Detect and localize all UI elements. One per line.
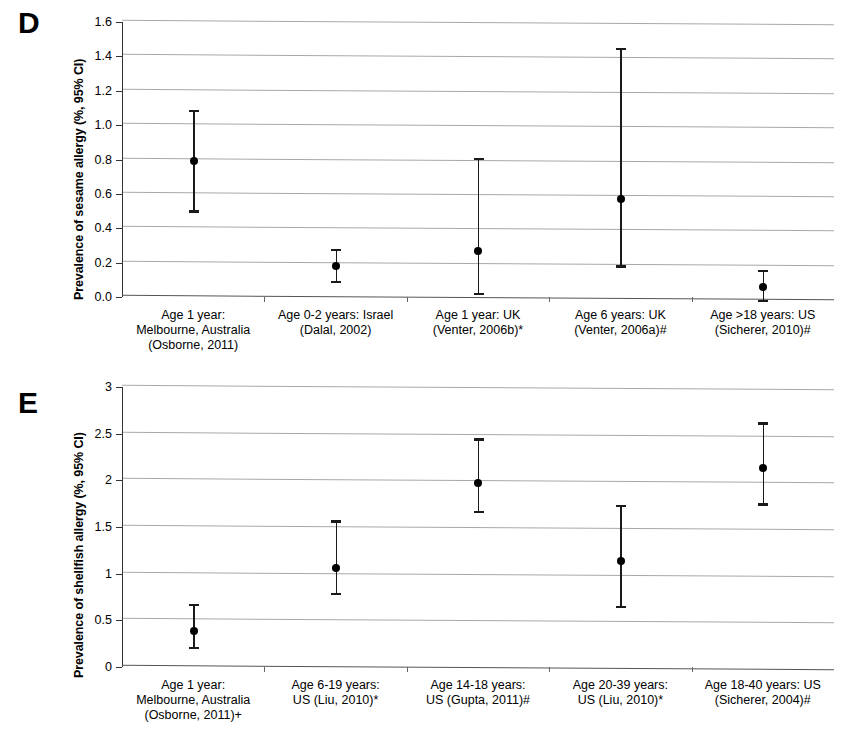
- error-bar: [620, 48, 621, 268]
- y-tick-label: 0.8: [60, 153, 112, 167]
- x-category-label: Age 1 year: Melbourne, Australia (Osborn…: [110, 678, 276, 723]
- error-bar-whisker-line: [336, 520, 337, 595]
- data-point-marker: [190, 627, 198, 635]
- x-tick-mark: [407, 297, 408, 302]
- y-tick-label: 2: [60, 473, 112, 487]
- x-tick-mark: [692, 297, 693, 302]
- y-tick-label: 1.2: [60, 84, 112, 98]
- data-point-marker: [759, 283, 767, 291]
- y-tick-label: 0.0: [60, 290, 112, 304]
- y-tick-label: 2.5: [60, 427, 112, 441]
- panel-e-plot-area: [122, 387, 834, 667]
- y-tick-label: 1.4: [60, 49, 112, 63]
- data-point-marker: [190, 157, 198, 165]
- y-tick-label: 0.5: [60, 613, 112, 627]
- error-bar-upper-cap: [331, 520, 341, 522]
- data-point-marker: [474, 247, 482, 255]
- data-point-marker: [332, 564, 340, 572]
- data-point-marker: [617, 195, 625, 203]
- error-bar-upper-cap: [758, 422, 768, 424]
- panel-e-letter: E: [18, 388, 38, 418]
- error-bar-upper-cap: [189, 110, 199, 112]
- panel-e-grid: [122, 387, 834, 667]
- x-category-label: Age 20-39 years: US (Liu, 2010)*: [537, 678, 703, 708]
- error-bar: [193, 604, 194, 650]
- gridline: [122, 20, 834, 25]
- error-bar-upper-cap: [189, 604, 199, 606]
- y-tick-label: 0.2: [60, 256, 112, 270]
- x-category-label: Age 14-18 years: US (Gupta, 2011)#: [395, 678, 561, 708]
- data-point-marker: [759, 464, 767, 472]
- gridline: [122, 385, 834, 390]
- error-bar-whisker-line: [478, 438, 479, 513]
- data-point-marker: [474, 479, 482, 487]
- gridline: [122, 525, 834, 530]
- error-bar-upper-cap: [758, 270, 768, 272]
- error-bar: [763, 422, 764, 505]
- gridline: [122, 54, 834, 59]
- y-tick-label: 1.6: [60, 15, 112, 29]
- x-tick-mark: [264, 297, 265, 302]
- error-bar-upper-cap: [616, 48, 626, 50]
- x-tick-mark: [549, 667, 550, 672]
- y-axis: [122, 387, 123, 667]
- x-axis: [122, 295, 834, 300]
- panel-d-grid: [122, 22, 834, 297]
- data-point-marker: [332, 262, 340, 270]
- x-tick-mark: [692, 667, 693, 672]
- error-bar: [620, 505, 621, 609]
- x-category-label: Age 6-19 years: US (Liu, 2010)*: [253, 678, 419, 708]
- error-bar-lower-cap: [474, 511, 484, 513]
- data-point-marker: [617, 557, 625, 565]
- x-category-label: Age 1 year: UK (Venter, 2006b)*: [395, 308, 561, 338]
- error-bar: [763, 270, 764, 303]
- error-bar-whisker-line: [478, 158, 479, 296]
- x-tick-mark: [407, 667, 408, 672]
- panel-d-plot-area: [122, 22, 834, 297]
- figure-panels-d-e: D Prevalence of sesame allergy (%, 95% C…: [0, 0, 849, 748]
- y-tick-label: 1.5: [60, 520, 112, 534]
- error-bar-upper-cap: [474, 158, 484, 160]
- error-bar: [193, 110, 194, 213]
- x-category-label: Age 6 years: UK (Venter, 2006a)#: [537, 308, 703, 338]
- x-category-label: Age 1 year: Melbourne, Australia (Osborn…: [110, 308, 276, 353]
- x-tick-mark: [264, 667, 265, 672]
- error-bar-upper-cap: [474, 438, 484, 440]
- x-category-label: Age >18 years: US (Sicherer, 2010)#: [680, 308, 846, 338]
- gridline: [122, 618, 834, 623]
- error-bar-lower-cap: [758, 300, 768, 302]
- y-tick-mark: [116, 297, 122, 298]
- y-tick-label: 1: [60, 567, 112, 581]
- y-tick-mark: [116, 667, 122, 668]
- x-category-label: Age 18-40 years: US (Sicherer, 2004)#: [680, 678, 846, 708]
- gridline: [122, 571, 834, 576]
- y-tick-label: 3: [60, 380, 112, 394]
- error-bar-lower-cap: [474, 293, 484, 295]
- error-bar-lower-cap: [331, 281, 341, 283]
- error-bar-lower-cap: [758, 503, 768, 505]
- y-tick-label: 0.6: [60, 187, 112, 201]
- x-category-label: Age 0-2 years: Israel (Dalal, 2002): [253, 308, 419, 338]
- y-tick-label: 0.4: [60, 221, 112, 235]
- x-axis: [122, 665, 834, 670]
- gridline: [122, 123, 834, 128]
- panel-d: D Prevalence of sesame allergy (%, 95% C…: [0, 0, 849, 380]
- error-bar-lower-cap: [616, 606, 626, 608]
- panel-e-y-axis-label: Prevalence of shellfish allergy (%, 95% …: [72, 432, 86, 678]
- error-bar-lower-cap: [331, 593, 341, 595]
- error-bar: [478, 438, 479, 513]
- panel-d-letter: D: [18, 8, 40, 38]
- error-bar-whisker-line: [620, 48, 621, 268]
- gridline: [122, 89, 834, 94]
- gridline: [122, 431, 834, 436]
- error-bar: [336, 520, 337, 595]
- error-bar-lower-cap: [616, 265, 626, 267]
- error-bar-upper-cap: [616, 505, 626, 507]
- error-bar-upper-cap: [331, 249, 341, 251]
- error-bar-lower-cap: [189, 210, 199, 212]
- panel-e: E Prevalence of shellfish allergy (%, 95…: [0, 380, 849, 748]
- y-axis: [122, 22, 123, 297]
- x-tick-mark: [549, 297, 550, 302]
- error-bar: [478, 158, 479, 296]
- error-bar: [336, 249, 337, 283]
